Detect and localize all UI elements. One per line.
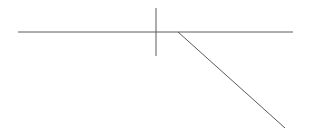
- diagram-canvas: [0, 0, 310, 134]
- line-diagram-svg: [0, 0, 310, 134]
- diagram-background: [0, 0, 310, 134]
